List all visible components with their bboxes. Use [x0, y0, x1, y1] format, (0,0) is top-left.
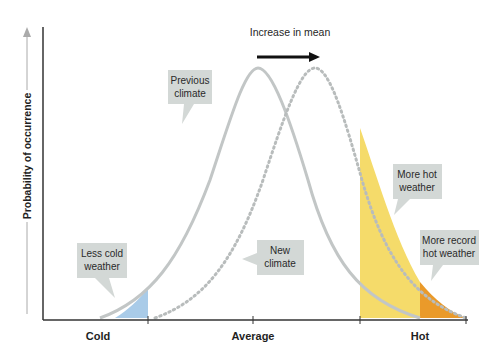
svg-text:weather: weather [83, 261, 120, 272]
climate-distribution-diagram: Probability of occurrence Increase in me… [0, 0, 504, 356]
svg-text:weather: weather [398, 182, 435, 193]
svg-text:More record: More record [422, 235, 476, 246]
x-label-hot: Hot [411, 330, 430, 342]
svg-text:More hot: More hot [397, 169, 437, 180]
svg-text:climate: climate [174, 88, 206, 99]
callout-previous-climate: Previous climate [168, 70, 212, 124]
svg-text:Less cold: Less cold [81, 248, 123, 259]
x-label-average: Average [231, 330, 274, 342]
callout-more-record-hot-weather: More record hot weather [420, 230, 479, 281]
callout-new-climate: New climate [242, 240, 304, 275]
callout-more-hot-weather: More hot weather [393, 164, 442, 215]
x-label-cold: Cold [86, 330, 110, 342]
increase-in-mean-label: Increase in mean [250, 26, 331, 38]
increase-arrow-head-icon [309, 52, 320, 62]
svg-text:New: New [270, 245, 291, 256]
callout-less-cold-weather: Less cold weather [77, 243, 127, 298]
svg-text:Previous: Previous [171, 75, 210, 86]
y-axis-label: Probability of occurrence [21, 93, 33, 220]
y-arrow-head-icon [23, 27, 31, 37]
more-hot-weather-region [360, 128, 420, 318]
svg-text:hot weather: hot weather [423, 248, 476, 259]
more-record-hot-weather-region [420, 282, 466, 318]
svg-text:climate: climate [264, 258, 296, 269]
